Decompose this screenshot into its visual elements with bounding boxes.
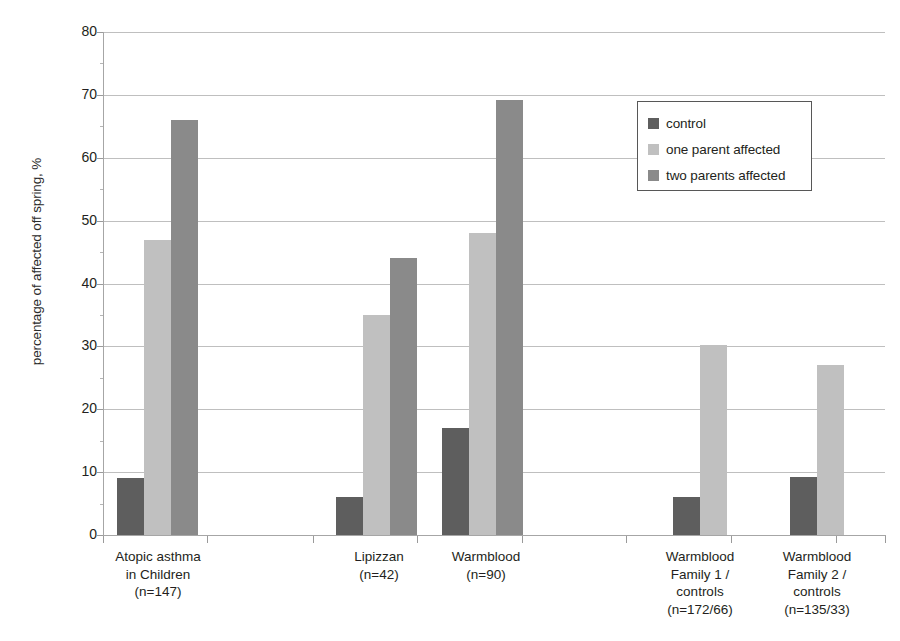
legend-label: one parent affected [666,142,780,157]
y-axis-minor-tick-mark [100,189,103,190]
y-axis-tick-labels: 80706050403020100 [47,32,97,535]
gridline [103,221,885,222]
y-axis-minor-tick-mark [100,378,103,379]
x-axis-tick-mark [626,536,627,543]
y-axis-tick-label: 80 [55,23,97,39]
bar-control-group-2 [336,497,363,535]
y-axis-tick-mark [97,409,103,410]
y-axis-tick-label: 50 [55,212,97,228]
y-axis-minor-tick-mark [100,504,103,505]
x-axis-category-label-line: controls [641,583,759,601]
legend-item-one-parent-affected[interactable]: one parent affected [648,136,811,162]
x-axis-tick-mark [103,536,104,543]
x-axis-category-label-line: Family 2 / [758,566,876,584]
y-axis-tick-label: 60 [55,149,97,165]
x-axis-category-label-line: in Children [83,566,233,584]
legend: controlone parent affectedtwo parents af… [637,101,812,191]
x-axis-category-label-line: Family 1 / [641,566,759,584]
x-axis-category-label-line: Warmblood [758,548,876,566]
legend-label: two parents affected [666,168,785,183]
x-axis-category-label-line: Warmblood [641,548,759,566]
legend-item-control[interactable]: control [648,110,811,136]
y-axis-tick-mark [97,221,103,222]
x-axis-category-label-1: Atopic asthmain Children(n=147) [83,548,233,601]
x-axis-tick-mark [885,536,886,543]
x-axis-tick-mark [417,536,418,543]
bar-one-parent-affected-group-3 [469,233,496,535]
bar-control-group-5 [790,477,817,535]
legend-label: control [666,116,706,131]
y-axis-tick-mark [97,346,103,347]
legend-item-two-parents-affected[interactable]: two parents affected [648,162,811,188]
gridline [103,95,885,96]
y-axis-tick-mark [97,32,103,33]
x-axis-line [103,535,886,536]
bar-one-parent-affected-group-5 [817,365,844,535]
bar-control-group-1 [117,478,144,535]
y-axis-tick-label: 40 [55,275,97,291]
y-axis-minor-tick-mark [100,126,103,127]
bar-one-parent-affected-group-1 [144,240,171,536]
legend-swatch-icon [648,170,659,181]
bar-chart: percentage of affected off spring, % 807… [0,0,900,641]
y-axis-tick-mark [97,95,103,96]
y-axis-minor-tick-mark [100,315,103,316]
x-axis-tick-mark [731,536,732,543]
x-axis-category-label-line: (n=90) [421,566,551,584]
bar-two-parents-affected-group-1 [171,120,198,535]
x-axis-tick-mark [207,536,208,543]
y-axis-tick-label: 0 [55,526,97,542]
x-axis-category-label-5: WarmbloodFamily 2 /controls(n=135/33) [758,548,876,618]
bar-control-group-4 [673,497,700,535]
y-axis-title: percentage of affected off spring, % [29,52,44,472]
y-axis-minor-tick-mark [100,441,103,442]
y-axis-tick-mark [97,284,103,285]
legend-swatch-icon [648,144,659,155]
y-axis-tick-label: 30 [55,337,97,353]
x-axis-category-label-line: controls [758,583,876,601]
bar-control-group-3 [442,428,469,535]
gridline [103,32,885,33]
y-axis-tick-label: 10 [55,463,97,479]
x-axis-category-label-line: (n=135/33) [758,601,876,619]
x-axis-tick-mark [313,536,314,543]
y-axis-minor-tick-mark [100,63,103,64]
x-axis-category-label-line: (n=172/66) [641,601,759,619]
x-axis-category-label-line: Atopic asthma [83,548,233,566]
y-axis-tick-mark [97,158,103,159]
y-axis-minor-tick-mark [100,252,103,253]
y-axis-tick-mark [97,472,103,473]
y-axis-tick-label: 70 [55,86,97,102]
y-axis-line [103,32,104,536]
legend-swatch-icon [648,118,659,129]
x-axis-tick-mark [836,536,837,543]
bar-one-parent-affected-group-2 [363,315,390,535]
bar-two-parents-affected-group-2 [390,258,417,535]
y-axis-tick-mark [97,535,103,536]
x-axis-category-label-4: WarmbloodFamily 1 /controls(n=172/66) [641,548,759,618]
x-axis-category-label-line: Warmblood [421,548,551,566]
bar-one-parent-affected-group-4 [700,345,727,536]
x-axis-tick-mark [522,536,523,543]
y-axis-tick-label: 20 [55,400,97,416]
x-axis-category-label-line: (n=147) [83,583,233,601]
x-axis-category-label-3: Warmblood(n=90) [421,548,551,583]
bar-two-parents-affected-group-3 [496,100,523,535]
